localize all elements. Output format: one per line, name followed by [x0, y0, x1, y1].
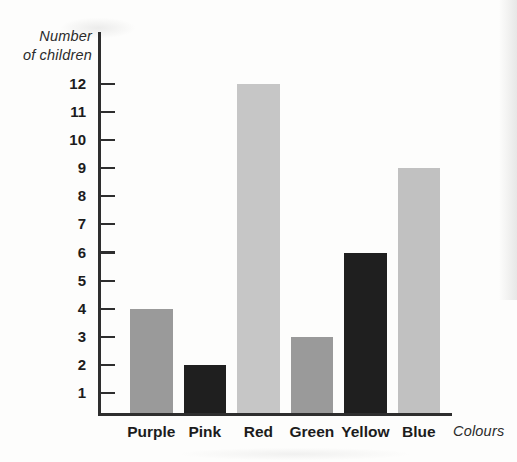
- scan-artifact: [499, 0, 517, 300]
- y-tick-mark-5: [98, 280, 115, 282]
- y-tick-label-10: 10: [36, 130, 86, 150]
- y-tick-label-4: 4: [36, 299, 86, 319]
- y-tick-label-1: 1: [36, 383, 86, 403]
- y-axis-label-line-2: of children: [0, 46, 92, 65]
- y-tick-label-8: 8: [36, 186, 86, 206]
- x-axis-line: [98, 413, 452, 416]
- bar-pink: [184, 365, 227, 413]
- y-tick-label-11: 11: [36, 102, 86, 122]
- y-tick-mark-9: [98, 167, 115, 169]
- bar-blue: [398, 168, 441, 413]
- y-tick-mark-11: [98, 111, 115, 113]
- y-axis-label-line-1: Number: [0, 27, 92, 46]
- y-tick-label-6: 6: [36, 243, 86, 263]
- y-tick-mark-12: [98, 83, 115, 85]
- y-tick-label-2: 2: [36, 355, 86, 375]
- bar-green: [291, 337, 334, 413]
- y-tick-mark-1: [98, 392, 115, 394]
- y-tick-mark-2: [98, 364, 115, 366]
- bar-red: [237, 84, 280, 413]
- y-tick-label-3: 3: [36, 327, 86, 347]
- y-tick-label-12: 12: [36, 74, 86, 94]
- y-tick-label-7: 7: [36, 214, 86, 234]
- y-tick-mark-8: [98, 195, 115, 197]
- y-tick-mark-7: [98, 223, 115, 225]
- scan-artifact: [150, 446, 440, 462]
- y-axis-label: Number of children: [0, 27, 92, 65]
- y-tick-mark-4: [98, 308, 115, 310]
- y-tick-mark-6: [98, 251, 115, 253]
- y-tick-label-5: 5: [36, 271, 86, 291]
- bar-yellow: [344, 253, 387, 414]
- y-tick-mark-10: [98, 139, 115, 141]
- y-tick-label-9: 9: [36, 158, 86, 178]
- y-tick-mark-3: [98, 336, 115, 338]
- x-axis-label: Colours: [453, 423, 504, 439]
- bar-purple: [130, 309, 173, 413]
- bar-chart-figure: Number of children 123456789101112 Purpl…: [0, 0, 517, 462]
- category-label-blue: Blue: [387, 423, 451, 441]
